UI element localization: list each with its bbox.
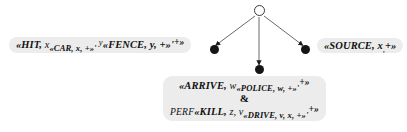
left-formula-box[interactable]: «HIT, x«CAR, x, +»' y«FENCE, y, +»'+» (9, 37, 191, 53)
bottom-node-dot[interactable] (255, 65, 264, 74)
diagram-canvas: «HIT, x«CAR, x, +»' y«FENCE, y, +»'+» «S… (0, 0, 407, 132)
predicate-hit: «HIT, (16, 39, 45, 50)
predicate-kill: «KILL, (194, 106, 229, 117)
right-node-dot[interactable] (301, 45, 310, 54)
bottom-formula-line-2: PERF«KILL, z, v«DRIVE, v, x, +»'+» (170, 106, 319, 118)
predicate-police: «POLICE, w, +»' (236, 83, 299, 93)
ampersand-operator: & (240, 92, 249, 104)
variable-z: z, (229, 106, 238, 117)
variable-x-source: x (377, 40, 382, 51)
source-subscript-mark: , (383, 44, 385, 54)
bottom-formula-conjunction: & (170, 93, 319, 105)
closing-plus-right: +» (385, 40, 396, 51)
closing-plus-arrive: +» (299, 77, 309, 87)
variable-y: y (97, 37, 103, 47)
bottom-formula-box[interactable]: «ARRIVE, w«POLICE, w, +»'+» & PERF«KILL,… (163, 76, 326, 121)
edge-root-to-right (264, 16, 303, 46)
root-node[interactable] (254, 5, 265, 16)
predicate-car: «CAR, x, +»' (49, 43, 96, 53)
predicate-source: «SOURCE, (324, 40, 377, 51)
left-formula-line: «HIT, x«CAR, x, +»' y«FENCE, y, +»'+» (16, 39, 184, 51)
predicate-fence: «FENCE, y, +»' (103, 39, 174, 50)
right-formula-box[interactable]: «SOURCE, x,+» (317, 38, 403, 53)
closing-plus-left: +» (174, 37, 184, 47)
bottom-formula-line-1: «ARRIVE, w«POLICE, w, +»'+» (170, 80, 319, 92)
right-formula-line: «SOURCE, x,+» (324, 40, 396, 51)
edge-root-to-left (216, 16, 256, 46)
predicate-drive: «DRIVE, v, x, +»' (243, 110, 308, 120)
predicate-arrive: «ARRIVE, (179, 80, 230, 91)
closing-plus-kill: +» (308, 104, 318, 114)
operator-perf: PERF (170, 106, 194, 117)
left-node-dot[interactable] (210, 45, 219, 54)
